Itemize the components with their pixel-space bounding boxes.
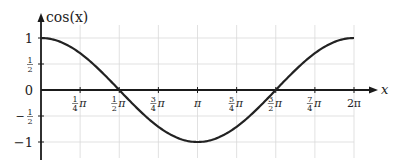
x-axis-arrow-icon <box>369 87 378 94</box>
svg-text:4: 4 <box>73 104 78 113</box>
svg-text:5: 5 <box>229 95 234 104</box>
y-axis-arrow-icon <box>38 13 45 22</box>
svg-text:π: π <box>193 97 202 110</box>
y-tick-label: 0 <box>25 83 33 98</box>
x-tick-label: 74π <box>307 95 322 113</box>
svg-text:π: π <box>156 97 165 110</box>
y-tick-label: −1 <box>14 135 33 150</box>
axes <box>38 13 379 160</box>
svg-text:4: 4 <box>307 104 312 113</box>
y-tick-label: 12 <box>27 56 33 75</box>
svg-text:2: 2 <box>27 65 32 74</box>
x-tick-label: 34π <box>150 95 165 113</box>
svg-text:π: π <box>274 97 283 110</box>
svg-text:π: π <box>313 97 322 110</box>
cosine-chart: 14π12π34ππ54π32π74π2π1120−12−1 cos(x) x <box>0 0 401 167</box>
svg-text:0: 0 <box>25 83 33 98</box>
svg-text:π: π <box>235 97 244 110</box>
x-tick-label: 12π <box>111 95 126 113</box>
svg-text:−: − <box>15 110 24 123</box>
svg-text:π: π <box>78 97 87 110</box>
svg-text:1: 1 <box>25 31 33 46</box>
x-tick-label: 54π <box>229 95 244 113</box>
svg-text:π: π <box>117 97 126 110</box>
x-axis-label: x <box>381 82 389 97</box>
svg-text:4: 4 <box>151 104 156 113</box>
svg-text:1: 1 <box>73 95 78 104</box>
svg-text:−1: −1 <box>14 135 33 150</box>
y-tick-label: −12 <box>15 108 33 127</box>
svg-text:2: 2 <box>112 104 117 113</box>
y-axis-label: cos(x) <box>46 9 88 25</box>
svg-text:3: 3 <box>151 95 156 104</box>
svg-text:2π: 2π <box>347 97 361 110</box>
svg-text:7: 7 <box>307 95 312 104</box>
svg-text:1: 1 <box>27 108 32 117</box>
svg-text:1: 1 <box>27 56 32 65</box>
svg-text:4: 4 <box>229 104 234 113</box>
x-tick-label: π <box>193 97 202 110</box>
x-tick-label: 2π <box>347 97 361 110</box>
svg-text:2: 2 <box>27 117 32 126</box>
x-tick-label: 14π <box>72 95 87 113</box>
svg-text:2: 2 <box>268 104 273 113</box>
y-tick-label: 1 <box>25 31 33 46</box>
svg-text:1: 1 <box>112 95 117 104</box>
